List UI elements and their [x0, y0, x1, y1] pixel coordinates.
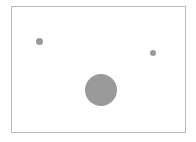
plot-frame [11, 6, 186, 133]
data-point-marker [150, 50, 156, 56]
data-point-marker [36, 38, 43, 45]
plot-area [12, 7, 185, 132]
data-point-marker [85, 74, 117, 106]
chart-canvas [0, 0, 196, 142]
